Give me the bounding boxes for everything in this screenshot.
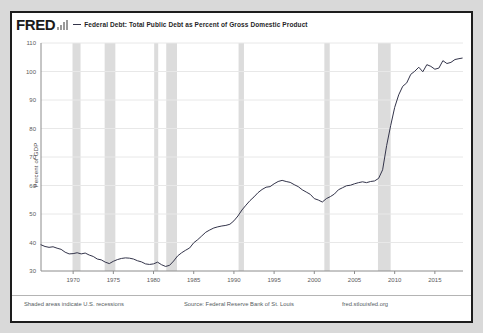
x-tick-label: 2005 [348, 277, 362, 283]
screenshot-root: FRED Federal Debt: Total Public Debt as … [0, 0, 483, 333]
fred-logo[interactable]: FRED [16, 17, 57, 32]
y-tick-label: 80 [29, 126, 36, 132]
x-tick-label: 1995 [267, 277, 281, 283]
y-tick-label: 60 [29, 183, 36, 189]
y-tick-label: 100 [26, 69, 37, 75]
x-tick-label: 1985 [187, 277, 201, 283]
x-tick-label: 1990 [227, 277, 241, 283]
fred-chart-card: FRED Federal Debt: Total Public Debt as … [10, 11, 473, 323]
y-tick-label: 30 [29, 268, 36, 274]
y-tick-label: 90 [29, 97, 36, 103]
y-tick-label: 50 [29, 211, 36, 217]
y-tick-label: 70 [29, 154, 36, 160]
chart-header: FRED Federal Debt: Total Public Debt as … [12, 13, 471, 35]
plot-area: Percent of GDP 3040506070809010011019701… [12, 35, 471, 295]
legend-line-swatch [73, 24, 81, 25]
x-tick-label: 2010 [388, 277, 402, 283]
x-tick-label: 2000 [308, 277, 322, 283]
series-title: Federal Debt: Total Public Debt as Perce… [84, 21, 307, 28]
x-tick-label: 1970 [66, 277, 80, 283]
source-note: Source: Federal Reserve Bank of St. Loui… [184, 301, 294, 307]
recession-note: Shaded areas indicate U.S. recessions [24, 301, 124, 307]
fred-url[interactable]: fred.stlouisfed.org [342, 301, 388, 307]
x-tick-label: 1980 [147, 277, 161, 283]
x-tick-label: 2015 [428, 277, 442, 283]
y-tick-label: 110 [26, 40, 36, 46]
bar-chart-icon [57, 20, 68, 30]
line-chart-svg: 3040506070809010011019701975198019851990… [12, 35, 471, 295]
x-tick-label: 1975 [107, 277, 121, 283]
chart-footer: Shaded areas indicate U.S. recessions So… [12, 295, 471, 321]
y-tick-label: 40 [29, 240, 36, 246]
